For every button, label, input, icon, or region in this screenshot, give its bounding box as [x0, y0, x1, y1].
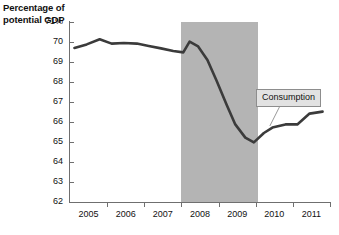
callout-text: Consumption — [262, 92, 315, 102]
consumption-callout-label: Consumption — [256, 89, 321, 107]
series-layer — [0, 0, 339, 235]
chart-container: Percentage of potential GDP 71%706968676… — [0, 0, 339, 235]
